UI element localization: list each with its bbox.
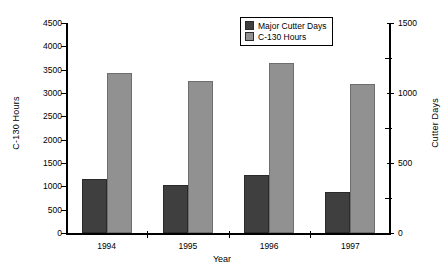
y-axis-left-tick — [61, 93, 68, 94]
legend-item-label: C-130 Hours — [258, 32, 306, 42]
y-axis-right-tick — [387, 233, 394, 234]
y-axis-right-line — [389, 23, 391, 235]
y-axis-right-tick — [387, 23, 394, 24]
y-axis-left-tick-label: 0 — [22, 229, 62, 238]
y-axis-left-tick-label: 500 — [22, 206, 62, 215]
y-axis-left-tick-label: 3000 — [22, 89, 62, 98]
y-axis-left-tick — [61, 163, 68, 164]
y-axis-right-tick-label: 500 — [398, 159, 438, 168]
y-axis-left-tick — [61, 210, 68, 211]
y-axis-left-tick-label: 3500 — [22, 66, 62, 75]
y-axis-left-tick-label: 1500 — [22, 159, 62, 168]
y-axis-right-tick-label: 1000 — [398, 89, 438, 98]
y-axis-right-minor-tick — [385, 128, 392, 129]
y-axis-right-tick — [387, 163, 394, 164]
y-axis-left-tick — [61, 116, 68, 117]
legend-swatch-icon — [245, 21, 254, 30]
legend-swatch-icon — [245, 32, 254, 41]
bar-c130-hours — [107, 73, 132, 233]
y-axis-left-tick-label: 2500 — [22, 112, 62, 121]
y-axis-right-tick — [387, 93, 394, 94]
x-axis-tick-label: 1997 — [310, 241, 390, 251]
x-axis-tick-label: 1995 — [148, 241, 228, 251]
bar-c130-hours — [350, 84, 375, 233]
x-axis-tick — [147, 231, 148, 238]
plot-area: 050010001500200025003000350040004500 050… — [66, 23, 391, 234]
bar-major-cutter-days — [82, 179, 107, 233]
legend-item: Major Cutter Days — [245, 20, 327, 31]
y-axis-left-tick — [61, 23, 68, 24]
y-axis-left-tick — [61, 140, 68, 141]
y-axis-left-tick-label: 1000 — [22, 182, 62, 191]
y-axis-left-tick-label: 4500 — [22, 19, 62, 28]
bar-major-cutter-days — [325, 192, 350, 233]
x-axis-tick — [229, 231, 230, 238]
bar-c130-hours — [188, 81, 213, 233]
y-axis-right-tick-label: 1500 — [398, 19, 438, 28]
x-axis-tick-label: 1996 — [229, 241, 309, 251]
x-axis-tick-label: 1994 — [67, 241, 147, 251]
legend-item: C-130 Hours — [245, 31, 327, 42]
y-axis-left-line — [66, 23, 68, 235]
y-axis-left-tick-label: 2000 — [22, 136, 62, 145]
legend-item-label: Major Cutter Days — [258, 21, 327, 31]
bar-major-cutter-days — [244, 175, 269, 233]
chart-legend: Major Cutter DaysC-130 Hours — [240, 17, 333, 46]
y-axis-left-tick — [61, 46, 68, 47]
dual-axis-bar-chart: C-130 Hours Cutter Days Year 05001000150… — [0, 0, 444, 277]
y-axis-left-tick — [61, 186, 68, 187]
y-axis-right-minor-tick — [385, 58, 392, 59]
y-axis-right-minor-tick — [385, 198, 392, 199]
bar-major-cutter-days — [163, 185, 188, 233]
x-axis-title: Year — [0, 254, 444, 264]
y-axis-right-tick-label: 0 — [398, 229, 438, 238]
y-axis-left-tick-label: 4000 — [22, 42, 62, 51]
x-axis-tick — [310, 231, 311, 238]
y-axis-left-title: C-130 Hours — [11, 80, 21, 166]
bar-c130-hours — [269, 63, 294, 233]
y-axis-left-tick — [61, 233, 68, 234]
y-axis-left-tick — [61, 70, 68, 71]
